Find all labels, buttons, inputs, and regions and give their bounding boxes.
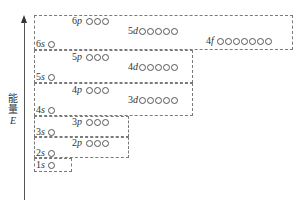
orbital-circle-icon [48,162,55,169]
orbital-circle-icon [48,129,55,136]
sublevel-4p: 4p [72,85,109,95]
sublevel-l: p [77,137,82,148]
sublevel-3p: 3p [72,117,109,127]
orbital-circle-icon [48,107,55,114]
orbital-circle-icon [86,119,93,126]
sublevel-l: s [41,38,45,49]
sublevel-1s: 1s [36,160,55,170]
sublevel-l: p [77,84,82,95]
sublevel-l: s [41,147,45,158]
sublevel-2s: 2s [36,148,55,158]
orbital-circle-icon [139,97,146,104]
orbital-circle-icon [163,64,170,71]
orbital-circle-icon [102,18,109,25]
sublevel-l: d [133,94,138,105]
orbital-circle-icon [102,119,109,126]
orbital-circle-icon [225,38,232,45]
orbital-circle-icon [163,28,170,35]
sublevel-l: f [211,35,214,46]
orbital-circle-icon [147,64,154,71]
orbital-circle-icon [48,150,55,157]
sublevel-l: p [77,51,82,62]
sublevel-l: s [41,126,45,137]
sublevel-l: s [41,71,45,82]
orbital-circle-icon [241,38,248,45]
sublevel-5d: 5d [128,26,178,36]
orbital-circle-icon [94,119,101,126]
orbital-circle-icon [147,28,154,35]
orbital-circle-icon [94,87,101,94]
orbital-circle-icon [86,18,93,25]
orbital-circle-icon [86,140,93,147]
sublevel-l: d [133,25,138,36]
axis-label-symbol: E [6,115,20,126]
sublevel-3s: 3s [36,127,55,137]
axis-label-char-1: 能 [6,93,20,104]
orbital-circle-icon [171,97,178,104]
orbital-circle-icon [86,87,93,94]
orbital-circle-icon [147,97,154,104]
orbital-circle-icon [94,54,101,61]
orbital-circle-icon [171,64,178,71]
sublevel-l: d [133,61,138,72]
orbital-circle-icon [155,64,162,71]
sublevel-5p: 5p [72,52,109,62]
energy-axis [24,22,25,200]
sublevel-l: p [77,116,82,127]
orbital-circle-icon [94,18,101,25]
orbital-circle-icon [102,54,109,61]
sublevel-6p: 6p [72,16,109,26]
orbital-circle-icon [102,140,109,147]
axis-label-char-2: 量 [6,104,20,115]
orbital-circle-icon [171,28,178,35]
energy-axis-label: 能 量 E [6,93,20,126]
sublevel-5s: 5s [36,72,55,82]
orbital-circle-icon [102,87,109,94]
sublevel-2p: 2p [72,138,109,148]
orbital-circle-icon [94,140,101,147]
orbital-circle-icon [139,64,146,71]
orbital-circle-icon [86,54,93,61]
sublevel-4s: 4s [36,105,55,115]
sublevel-4f: 4f [206,36,272,46]
sublevel-l: s [41,104,45,115]
sublevel-3d: 3d [128,95,178,105]
orbital-circle-icon [233,38,240,45]
sublevel-6s: 6s [36,39,55,49]
sublevel-4d: 4d [128,62,178,72]
orbital-circle-icon [48,41,55,48]
orbital-circle-icon [48,74,55,81]
orbital-circle-icon [139,28,146,35]
orbital-circle-icon [265,38,272,45]
orbital-circle-icon [217,38,224,45]
orbital-circle-icon [155,28,162,35]
orbital-circle-icon [163,97,170,104]
orbital-circle-icon [257,38,264,45]
orbital-circle-icon [155,97,162,104]
sublevel-l: s [41,159,45,170]
sublevel-l: p [77,15,82,26]
orbital-circle-icon [249,38,256,45]
